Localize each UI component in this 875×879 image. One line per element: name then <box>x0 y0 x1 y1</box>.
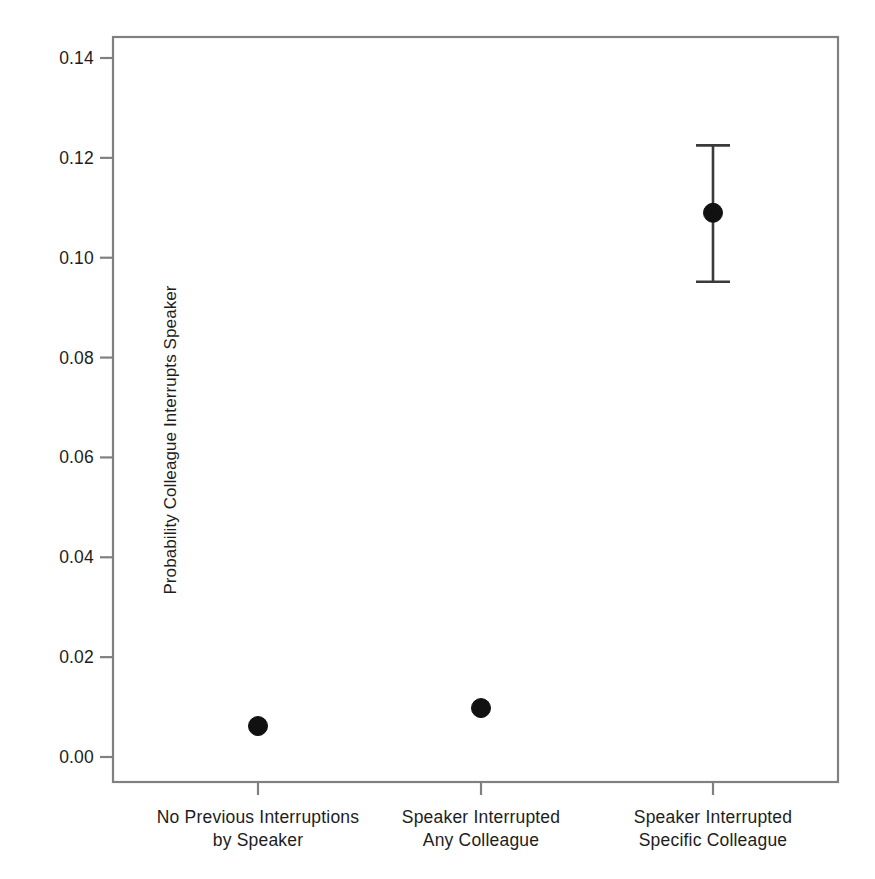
figure-canvas: Probability Colleague Interrupts Speaker… <box>0 0 875 879</box>
data-markers <box>249 203 723 735</box>
x-axis-tick-label-line: Any Colleague <box>402 829 560 852</box>
x-axis-tick-label-line: No Previous Interruptions <box>157 806 359 829</box>
y-axis-tick-label: 0.04 <box>22 547 94 568</box>
plot-area <box>0 0 875 879</box>
x-axis-tick-label-line: by Speaker <box>157 829 359 852</box>
y-axis-tick-label: 0.02 <box>22 647 94 668</box>
y-axis-tick-label: 0.06 <box>22 447 94 468</box>
x-axis-tick-label: No Previous Interruptionsby Speaker <box>157 806 359 852</box>
y-axis-tick-label: 0.14 <box>22 48 94 69</box>
x-axis-tick-label: Speaker InterruptedAny Colleague <box>402 806 560 852</box>
x-axis-tick-label-line: Specific Colleague <box>634 829 792 852</box>
y-axis-tick-label: 0.08 <box>22 347 94 368</box>
y-axis-tick-label: 0.12 <box>22 147 94 168</box>
y-axis-tick-label: 0.10 <box>22 247 94 268</box>
x-axis-tick-label: Speaker InterruptedSpecific Colleague <box>634 806 792 852</box>
y-axis-ticks <box>100 58 113 757</box>
plot-frame <box>113 37 838 782</box>
x-axis-ticks <box>258 782 713 795</box>
x-axis-tick-label-line: Speaker Interrupted <box>634 806 792 829</box>
y-axis-tick-label: 0.00 <box>22 747 94 768</box>
x-axis-tick-label-line: Speaker Interrupted <box>402 806 560 829</box>
